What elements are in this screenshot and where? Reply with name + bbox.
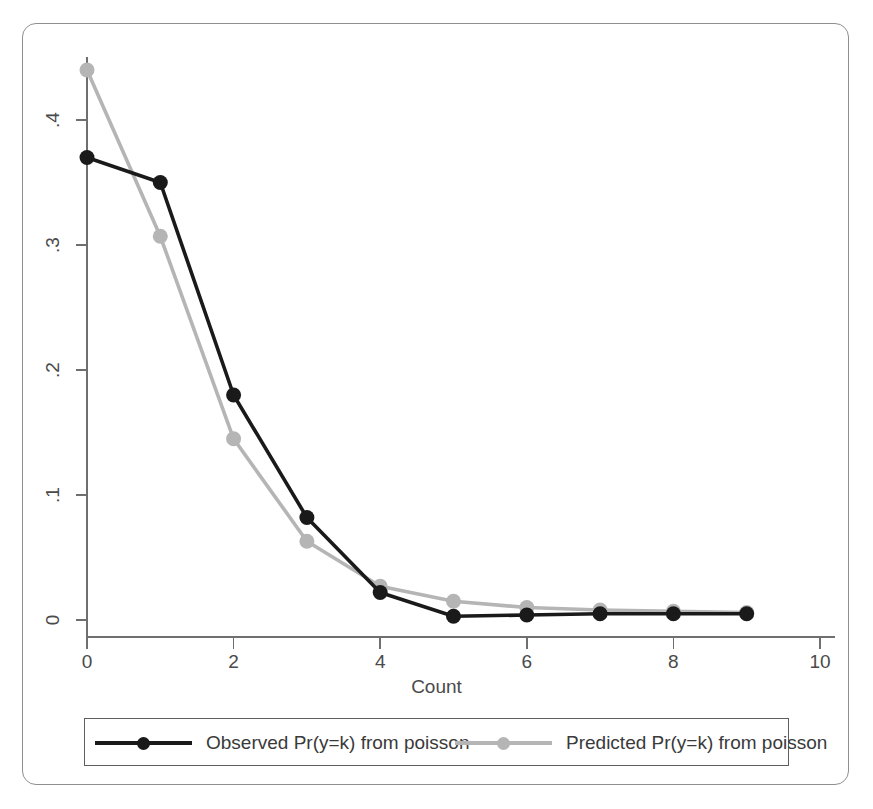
data-point-1-5 <box>446 594 461 609</box>
series-line-1 <box>87 70 747 613</box>
legend-label-observed: Observed Pr(y=k) from poisson <box>206 732 469 754</box>
legend-key-observed-icon <box>95 735 192 751</box>
data-point-0-7 <box>593 606 608 621</box>
legend: Observed Pr(y=k) from poisson Predicted … <box>84 718 789 766</box>
data-point-0-1 <box>153 175 168 190</box>
data-point-0-2 <box>226 388 241 403</box>
x-axis-title: Count <box>0 676 873 698</box>
data-point-0-6 <box>519 608 534 623</box>
data-point-0-4 <box>373 585 388 600</box>
data-point-0-9 <box>739 606 754 621</box>
legend-entry-predicted: Predicted Pr(y=k) from poisson <box>455 719 827 767</box>
data-point-1-0 <box>80 63 95 78</box>
chart-page: 0.1.2.3.4 0246810 Count Observed Pr(y=k)… <box>0 0 873 809</box>
data-point-0-5 <box>446 609 461 624</box>
legend-entry-observed: Observed Pr(y=k) from poisson <box>95 719 469 767</box>
data-point-1-2 <box>226 431 241 446</box>
legend-label-predicted: Predicted Pr(y=k) from poisson <box>566 732 827 754</box>
series-line-0 <box>87 158 747 617</box>
data-point-0-3 <box>299 510 314 525</box>
data-point-1-3 <box>299 534 314 549</box>
legend-key-predicted-icon <box>455 735 552 751</box>
data-point-0-8 <box>666 606 681 621</box>
data-point-0-0 <box>80 150 95 165</box>
data-point-1-1 <box>153 229 168 244</box>
